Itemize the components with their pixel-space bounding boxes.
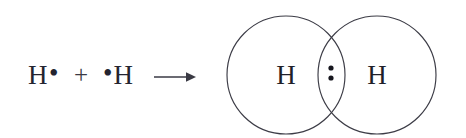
reactant-hydrogen-left: H•	[28, 58, 58, 92]
shared-electron-dot-top	[328, 65, 333, 70]
right-arrow-icon	[153, 64, 199, 90]
atom-label-h: H	[28, 60, 48, 90]
product-molecule-h2: H H	[218, 8, 466, 138]
reaction-equation: H• + •H	[0, 0, 226, 138]
atom-label-h: H	[113, 60, 133, 90]
shared-electron-dot-bottom	[328, 75, 333, 80]
lewis-structure-diagram: H• + •H H H	[0, 0, 466, 138]
plus-operator: +	[74, 58, 89, 92]
reactant-hydrogen-right: •H	[103, 58, 133, 92]
atom-label-h-right: H	[367, 60, 387, 90]
electron-dot-icon: •	[103, 58, 112, 88]
atom-label-h-left: H	[276, 60, 296, 90]
electron-dot-icon: •	[49, 58, 58, 88]
